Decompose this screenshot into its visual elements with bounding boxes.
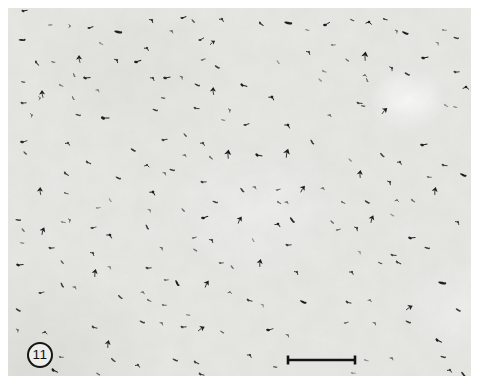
micrograph-overlay [0, 0, 484, 390]
photo-grain-texture [8, 8, 471, 376]
figure-number-label: 11 [32, 348, 47, 362]
figure-number-circle: 11 [27, 342, 53, 368]
page: { "page": { "background": "#ffffff" }, "… [0, 0, 484, 390]
